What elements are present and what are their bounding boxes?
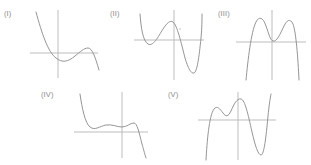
figure-ii-graph	[132, 8, 208, 84]
figure-i-label: (I)	[4, 9, 11, 18]
figure-v-label: (V)	[168, 90, 178, 99]
figure-iii-graph	[236, 8, 310, 84]
figure-i-curve	[36, 12, 99, 70]
figure-ii-curve	[140, 14, 202, 73]
figure-i-graph	[28, 8, 102, 82]
figure-v-graph	[196, 90, 280, 162]
figure-v-curve	[206, 94, 271, 160]
figure-iv-curve	[80, 94, 146, 158]
figure-v-plot	[196, 90, 280, 162]
figure-i-plot	[28, 8, 102, 82]
figure-iv-plot	[72, 90, 152, 162]
figure-iv-label: (IV)	[41, 90, 53, 99]
figure-iii-plot	[236, 8, 310, 84]
figure-ii-speck-mark	[179, 28, 181, 30]
figure-iii-curve	[246, 18, 299, 80]
figure-iii-label: (III)	[218, 9, 230, 18]
figure-ii-label: (II)	[110, 9, 120, 18]
worksheet-canvas: (I) (II) (III)	[0, 0, 311, 165]
figure-iv-graph	[72, 90, 152, 162]
figure-ii-plot	[132, 8, 208, 84]
